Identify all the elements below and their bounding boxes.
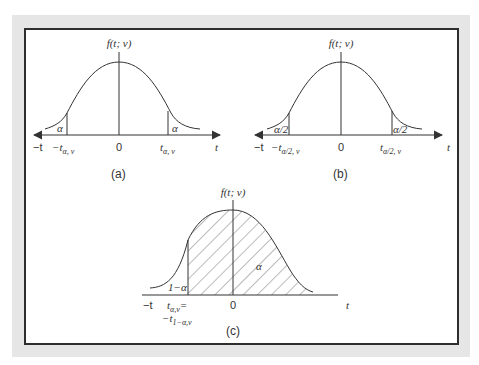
y-label: f(t; v): [329, 37, 354, 50]
left-tail-label: 1−α: [168, 281, 187, 293]
shaded-label: α: [256, 260, 262, 272]
axis-left-label: −t: [254, 141, 263, 153]
zero-label: 0: [116, 141, 122, 153]
t-distribution-figure: f(t; v) −t t 0 −tα, v tα, v α α (a) f(t;…: [0, 0, 479, 365]
axis-right-label: t: [215, 141, 219, 153]
panel-c: f(t; v) −t t 0 tα,v= −t1−α,v 1−α α (c): [140, 186, 350, 338]
axis-right-label: t: [346, 299, 350, 311]
left-cut-label: −tα, v: [52, 141, 75, 156]
right-cut-label: tα, v: [160, 141, 175, 156]
y-label: f(t; v): [107, 37, 132, 50]
left-tail-label: α: [57, 122, 63, 134]
y-label: f(t; v): [221, 186, 246, 199]
zero-label: 0: [338, 141, 344, 153]
right-tail-label: α: [172, 122, 178, 134]
panel-a: f(t; v) −t t 0 −tα, v tα, v α α (a): [33, 37, 220, 181]
axis-right-label: t: [447, 141, 451, 153]
density-curve: [267, 62, 422, 129]
left-tail-label: α/2: [274, 123, 289, 135]
zero-label: 0: [230, 299, 236, 311]
axis-left-label: −t: [33, 141, 42, 153]
left-cut-label: −tα/2, v: [271, 141, 300, 156]
axis-left-label: −t: [143, 299, 152, 311]
right-cut-label: tα/2, v: [380, 141, 401, 156]
cut-label-bottom: −t1−α,v: [162, 312, 192, 327]
panel-b: f(t; v) −t t 0 −tα/2, v tα/2, v α/2 α/2 …: [254, 37, 451, 181]
caption-c: (c): [226, 324, 240, 338]
caption-a: (a): [111, 167, 126, 181]
caption-b: (b): [333, 167, 348, 181]
right-tail-label: α/2: [393, 123, 408, 135]
density-curve: [45, 62, 200, 129]
